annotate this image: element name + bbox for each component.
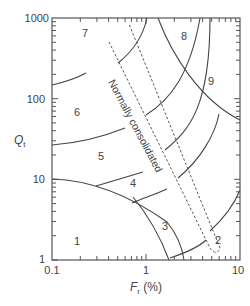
- x-tick-0.1: 0.1: [44, 264, 59, 276]
- y-axis-label: Qt: [14, 133, 26, 149]
- normally-consolidated-band: [109, 24, 220, 252]
- zone-8-label: 8: [181, 30, 187, 42]
- zone-1-label: 1: [74, 235, 80, 247]
- y-tick-1000: 1000: [25, 12, 49, 24]
- y-tick-labels: 1 10 100 1000: [25, 12, 49, 265]
- y-tick-10: 10: [33, 173, 45, 185]
- zone-9-label: 9: [208, 75, 214, 87]
- soil-behaviour-chart: 1 10 100 1000 0.1 1 10 Qt Fr (%) 1 2 3 4…: [0, 0, 250, 306]
- zone-5-label: 5: [98, 150, 104, 162]
- zone-4-label: 4: [130, 177, 136, 189]
- zone-7-label: 7: [82, 27, 88, 39]
- x-tick-1: 1: [143, 264, 149, 276]
- x-tick-labels: 0.1 1 10: [44, 264, 244, 276]
- x-axis-label: Fr (%): [130, 280, 162, 296]
- zone-3-label: 3: [162, 220, 168, 232]
- y-tick-100: 100: [27, 93, 45, 105]
- x-axis-ticks: [80, 18, 235, 260]
- zone-2-label: 2: [215, 234, 221, 246]
- zone-6-label: 6: [74, 106, 80, 118]
- x-tick-10: 10: [232, 264, 244, 276]
